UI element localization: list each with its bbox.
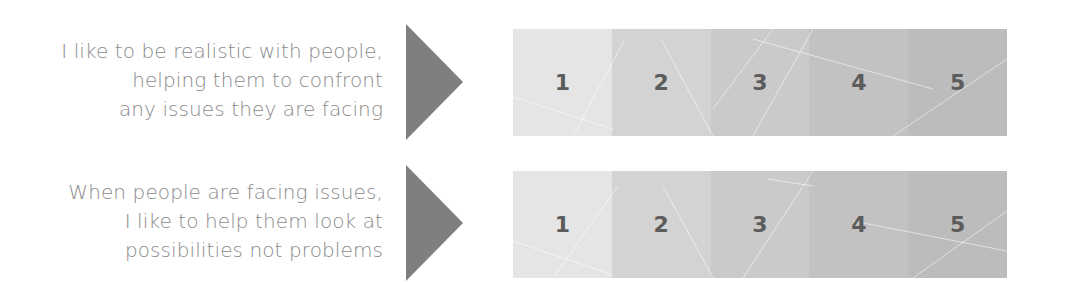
statement-line: I like to be realistic with people,: [3, 37, 383, 66]
statement-line: possibilities not problems: [3, 236, 383, 265]
question-statement: I like to be realistic with people, help…: [3, 37, 383, 124]
rating-option-label: 2: [654, 70, 669, 95]
rating-option-2[interactable]: 2: [612, 171, 711, 278]
statement-line: I like to help them look at: [3, 207, 383, 236]
rating-option-3[interactable]: 3: [711, 171, 810, 278]
question-row: I like to be realistic with people, help…: [0, 0, 1069, 142]
rating-option-label: 3: [752, 212, 767, 237]
rating-scale: 1 2 3 4 5: [513, 29, 1007, 136]
arrow-right-icon: [406, 165, 463, 281]
statement-line: helping them to confront: [3, 66, 383, 95]
rating-option-label: 3: [752, 70, 767, 95]
rating-option-1[interactable]: 1: [513, 171, 612, 278]
rating-option-5[interactable]: 5: [908, 29, 1007, 136]
rating-option-3[interactable]: 3: [711, 29, 810, 136]
question-row: When people are facing issues, I like to…: [0, 142, 1069, 283]
rating-option-1[interactable]: 1: [513, 29, 612, 136]
rating-option-label: 5: [950, 70, 965, 95]
rating-option-label: 1: [555, 70, 570, 95]
statement-line: any issues they are facing: [3, 95, 383, 124]
rating-option-label: 4: [851, 70, 866, 95]
rating-option-label: 1: [555, 212, 570, 237]
rating-option-5[interactable]: 5: [908, 171, 1007, 278]
rating-option-4[interactable]: 4: [809, 29, 908, 136]
rating-option-label: 5: [950, 212, 965, 237]
question-statement: When people are facing issues, I like to…: [3, 178, 383, 265]
statement-line: When people are facing issues,: [3, 178, 383, 207]
arrow-right-icon: [406, 24, 463, 140]
rating-option-label: 4: [851, 212, 866, 237]
rating-option-2[interactable]: 2: [612, 29, 711, 136]
rating-option-label: 2: [654, 212, 669, 237]
rating-scale: 1 2 3 4 5: [513, 171, 1007, 278]
rating-option-4[interactable]: 4: [809, 171, 908, 278]
